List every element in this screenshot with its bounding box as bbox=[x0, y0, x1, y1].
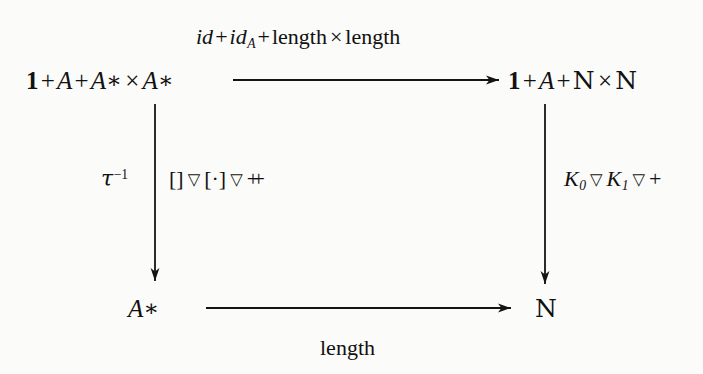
token-id: id bbox=[196, 24, 213, 49]
token-exponent-minus-one: −1 bbox=[113, 167, 128, 182]
token-times: × bbox=[122, 67, 142, 94]
token-dot: · bbox=[212, 166, 219, 191]
token-subscript-A: A bbox=[247, 36, 256, 51]
token-K: K bbox=[564, 166, 579, 191]
token-length: length bbox=[272, 24, 327, 49]
node-bottom-left: A∗ bbox=[128, 296, 159, 321]
token-natural-numbers: N bbox=[535, 294, 557, 323]
arrow-label-left-outer: τ−1 bbox=[101, 168, 128, 190]
token-tau: τ bbox=[101, 166, 113, 191]
arrow-label-left-inner: []▽[·]▽++ bbox=[169, 168, 265, 190]
token-length: length bbox=[345, 24, 400, 49]
token-nabla: ▽ bbox=[226, 170, 247, 189]
token-bracket-open: [ bbox=[204, 166, 211, 191]
token-plus: + bbox=[256, 24, 272, 49]
token-natural-numbers: N bbox=[573, 66, 595, 95]
arrow-label-right: K0▽K1▽+ bbox=[564, 168, 661, 192]
token-id: id bbox=[230, 24, 247, 49]
node-top-left: 1+A+A∗×A∗ bbox=[26, 68, 174, 93]
arrow-label-top: id+idA+length×length bbox=[196, 26, 400, 50]
token-times: × bbox=[327, 24, 345, 49]
token-nabla: ▽ bbox=[629, 170, 650, 189]
token-A: A bbox=[128, 295, 143, 322]
node-bottom-right: N bbox=[535, 296, 557, 321]
arrow-label-bottom: length bbox=[320, 337, 375, 359]
token-K: K bbox=[607, 166, 622, 191]
token-A: A bbox=[91, 67, 106, 94]
token-bracket-close: ] bbox=[176, 166, 183, 191]
token-natural-numbers: N bbox=[615, 66, 637, 95]
token-one: 1 bbox=[508, 67, 521, 94]
token-plus: + bbox=[649, 166, 661, 191]
token-plus: + bbox=[213, 24, 229, 49]
token-nabla: ▽ bbox=[184, 170, 205, 189]
token-times: × bbox=[595, 67, 615, 94]
token-subscript-0: 0 bbox=[579, 178, 586, 193]
token-subscript-1: 1 bbox=[621, 178, 628, 193]
token-plus: + bbox=[555, 67, 573, 94]
token-A: A bbox=[539, 67, 554, 94]
token-plus: + bbox=[73, 67, 91, 94]
commutative-diagram: 1+A+A∗×A∗ 1+A+N×N A∗ N id+idA+length×len… bbox=[0, 0, 703, 374]
token-length: length bbox=[320, 335, 375, 360]
token-A: A bbox=[57, 67, 72, 94]
token-plus: + bbox=[39, 67, 57, 94]
node-top-right: 1+A+N×N bbox=[508, 68, 637, 93]
token-star: ∗ bbox=[143, 296, 159, 321]
token-nabla: ▽ bbox=[586, 170, 607, 189]
token-A: A bbox=[142, 67, 157, 94]
token-concat: ++ bbox=[247, 166, 265, 191]
token-plus: + bbox=[521, 67, 539, 94]
token-star: ∗ bbox=[106, 68, 122, 93]
token-one: 1 bbox=[26, 67, 39, 94]
token-star: ∗ bbox=[158, 68, 174, 93]
